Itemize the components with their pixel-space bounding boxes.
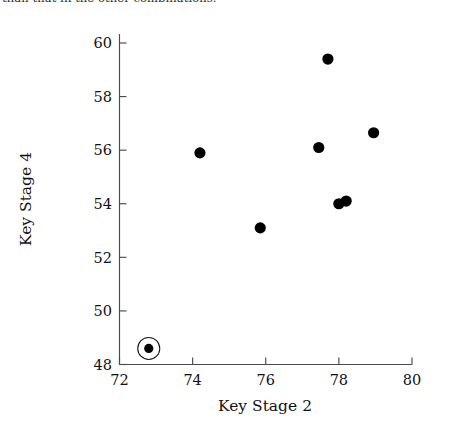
scatter-point: [255, 222, 266, 233]
x-tick-label: 80: [403, 372, 421, 388]
scatter-point: [144, 344, 153, 353]
scatter-plot-canvas: 48505254565860 7274767880 Key Stage 2 Ke…: [0, 8, 456, 425]
scatter-point: [194, 147, 205, 158]
x-axis-ticks: 7274767880: [110, 358, 421, 389]
y-tick-label: 58: [94, 89, 112, 105]
x-tick-label: 78: [330, 372, 348, 388]
scatter-point: [322, 53, 333, 64]
scatter-point: [368, 127, 379, 138]
y-axis-title: Key Stage 4: [17, 152, 35, 246]
scatter-point: [313, 142, 324, 153]
scatter-point: [341, 195, 352, 206]
x-tick-label: 76: [257, 372, 275, 388]
y-tick-label: 56: [94, 142, 112, 158]
caption-text: than that in the other combinations.: [2, 0, 217, 5]
y-tick-label: 60: [94, 35, 112, 51]
clipped-caption-strip: than that in the other combinations.: [0, 0, 456, 8]
scatter-plot-figure: 48505254565860 7274767880 Key Stage 2 Ke…: [0, 8, 456, 425]
x-axis-title: Key Stage 2: [218, 397, 312, 415]
y-axis-ticks: 48505254565860: [94, 35, 127, 373]
data-points-layer: [144, 53, 379, 353]
y-tick-label: 54: [94, 196, 112, 212]
y-tick-label: 52: [94, 250, 112, 266]
y-tick-label: 50: [94, 303, 112, 319]
x-tick-label: 72: [110, 372, 128, 388]
y-tick-label: 48: [94, 357, 112, 373]
x-tick-label: 74: [183, 372, 201, 388]
